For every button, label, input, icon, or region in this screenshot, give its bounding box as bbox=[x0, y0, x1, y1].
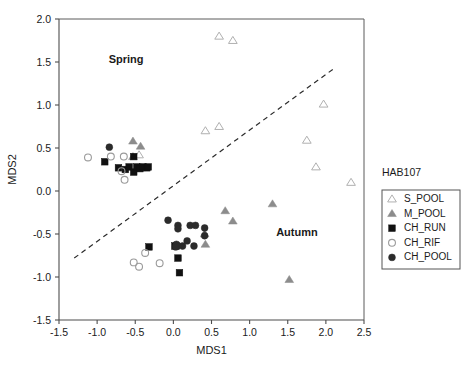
data-point-ch_rif bbox=[85, 154, 92, 161]
data-point-ch_rif bbox=[136, 263, 143, 270]
tick-labels-group: -1.5-1.0-0.50.00.51.01.52.02.52.01.51.00… bbox=[33, 13, 372, 338]
scatter-plot-figure: -1.5-1.0-0.50.00.51.01.52.02.52.01.51.00… bbox=[0, 0, 469, 371]
data-point-s_pool bbox=[312, 163, 321, 170]
y-tick-label: 1.5 bbox=[36, 56, 51, 68]
legend-label-ch_run: CH_RUN bbox=[404, 222, 446, 233]
data-point-m_pool bbox=[129, 137, 138, 144]
y-axis-title: MDS2 bbox=[6, 154, 18, 185]
data-point-ch_run bbox=[101, 158, 108, 165]
data-point-ch_pool bbox=[106, 144, 113, 151]
data-point-ch_pool bbox=[191, 243, 198, 250]
legend-item-ch_run[interactable]: CH_RUN bbox=[389, 222, 446, 233]
data-point-m_pool bbox=[136, 142, 145, 149]
x-tick-label: -1.0 bbox=[88, 326, 106, 338]
data-point-ch_rif bbox=[120, 153, 127, 160]
y-tick-label: -1.5 bbox=[33, 314, 51, 326]
region-label-autumn: Autumn bbox=[276, 226, 318, 238]
x-tick-label: 1.5 bbox=[280, 326, 295, 338]
data-point-ch_pool bbox=[179, 243, 186, 250]
legend-label-m_pool: M_POOL bbox=[404, 208, 446, 219]
data-point-m_pool bbox=[201, 240, 210, 247]
y-tick-label: 0.5 bbox=[36, 142, 51, 154]
legend-title: HAB107 bbox=[382, 166, 421, 178]
data-point-ch_rif bbox=[156, 260, 163, 267]
legend-marker-ch_run bbox=[389, 225, 396, 232]
series-s_pool bbox=[135, 32, 356, 185]
data-point-ch_run bbox=[146, 244, 153, 251]
series-m_pool bbox=[129, 137, 294, 282]
data-point-ch_run bbox=[175, 255, 182, 262]
data-point-ch_run bbox=[130, 153, 137, 160]
legend-item-ch_pool[interactable]: CH_POOL bbox=[389, 251, 453, 262]
legend-marker-ch_pool bbox=[389, 254, 396, 261]
ticks-group bbox=[55, 19, 364, 324]
data-point-s_pool bbox=[347, 178, 356, 185]
x-tick-label: 0.0 bbox=[166, 326, 181, 338]
data-point-m_pool bbox=[285, 275, 294, 282]
x-tick-label: 0.5 bbox=[204, 326, 219, 338]
data-point-ch_pool bbox=[175, 225, 182, 232]
x-tick-label: -1.5 bbox=[50, 326, 68, 338]
legend-label-ch_rif: CH_RIF bbox=[404, 237, 440, 248]
legend-group: HAB107S_POOLM_POOLCH_RUNCH_RIFCH_POOL bbox=[382, 166, 460, 269]
x-tick-label: 2.0 bbox=[319, 326, 334, 338]
legend-item-m_pool[interactable]: M_POOL bbox=[388, 208, 446, 219]
y-tick-label: -0.5 bbox=[33, 228, 51, 240]
y-tick-label: -1.0 bbox=[33, 271, 51, 283]
legend-marker-s_pool bbox=[388, 195, 397, 202]
data-point-m_pool bbox=[268, 200, 277, 207]
data-point-s_pool bbox=[319, 100, 328, 107]
data-point-s_pool bbox=[302, 136, 311, 143]
data-point-s_pool bbox=[228, 36, 237, 43]
x-tick-label: -0.5 bbox=[126, 326, 144, 338]
data-point-s_pool bbox=[201, 127, 210, 134]
data-point-ch_pool bbox=[165, 217, 172, 224]
data-point-ch_pool bbox=[201, 232, 208, 239]
data-point-s_pool bbox=[215, 32, 224, 39]
x-axis-title: MDS1 bbox=[196, 344, 227, 356]
legend-item-s_pool[interactable]: S_POOL bbox=[388, 193, 445, 204]
data-point-ch_run bbox=[176, 269, 183, 276]
legend-label-s_pool: S_POOL bbox=[404, 193, 444, 204]
data-point-m_pool bbox=[228, 217, 237, 224]
legend-item-ch_rif[interactable]: CH_RIF bbox=[389, 237, 441, 248]
legend-marker-ch_rif bbox=[389, 239, 396, 246]
y-tick-label: 0.0 bbox=[36, 185, 51, 197]
data-point-ch_pool bbox=[192, 222, 199, 229]
data-point-ch_rif bbox=[107, 153, 114, 160]
data-point-ch_pool bbox=[172, 243, 179, 250]
data-point-ch_pool bbox=[201, 225, 208, 232]
data-point-ch_rif bbox=[121, 176, 128, 183]
y-tick-label: 1.0 bbox=[36, 99, 51, 111]
data-point-ch_rif bbox=[142, 249, 149, 256]
y-tick-label: 2.0 bbox=[36, 13, 51, 25]
plot-canvas: -1.5-1.0-0.50.00.51.01.52.02.52.01.51.00… bbox=[0, 0, 469, 371]
data-points-group bbox=[85, 32, 356, 282]
region-label-spring: Spring bbox=[109, 53, 144, 65]
data-point-m_pool bbox=[221, 207, 230, 214]
legend-label-ch_pool: CH_POOL bbox=[404, 251, 452, 262]
data-point-s_pool bbox=[215, 122, 224, 129]
x-tick-label: 2.5 bbox=[357, 326, 372, 338]
x-tick-label: 1.0 bbox=[242, 326, 257, 338]
legend-marker-m_pool bbox=[388, 210, 397, 217]
data-point-ch_run bbox=[145, 164, 152, 171]
series-ch_run bbox=[101, 153, 182, 276]
